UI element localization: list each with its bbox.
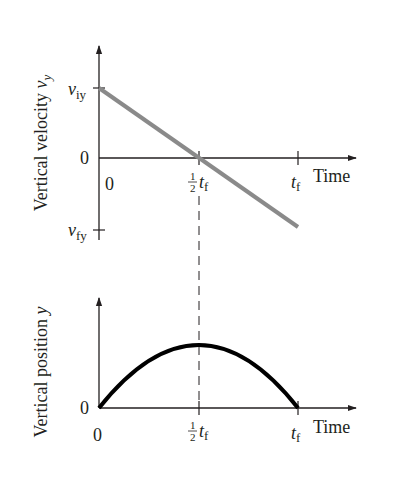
label-tf: tf bbox=[291, 172, 301, 194]
position-plot: Vertical position y 0 0 1 2 tf tf Time bbox=[31, 298, 356, 445]
position-x-axis-title: Time bbox=[313, 417, 350, 437]
velocity-plot: Vertical velocity vy viy 0 vfy 0 1 2 tf … bbox=[31, 46, 356, 243]
kinematics-diagram: Vertical velocity vy viy 0 vfy 0 1 2 tf … bbox=[0, 0, 414, 484]
half-num-bottom: 1 bbox=[190, 419, 196, 431]
label-vfy: vfy bbox=[68, 220, 87, 243]
label-y-zero: 0 bbox=[80, 148, 89, 168]
label-viy: viy bbox=[68, 79, 87, 102]
half-num: 1 bbox=[190, 170, 196, 182]
label-half-tf-bottom: tf bbox=[199, 421, 209, 443]
label-half-tf: tf bbox=[199, 172, 209, 194]
position-y-axis-title: Vertical position y bbox=[31, 307, 51, 438]
label-tf-bottom: tf bbox=[291, 423, 301, 445]
label-x-zero: 0 bbox=[105, 174, 114, 194]
half-den: 2 bbox=[190, 182, 196, 194]
half-den-bottom: 2 bbox=[190, 431, 196, 443]
velocity-x-axis-title: Time bbox=[313, 166, 350, 186]
velocity-y-axis-title: Vertical velocity vy bbox=[31, 74, 54, 211]
label-x-zero-bottom: 0 bbox=[93, 425, 102, 445]
label-y-zero-bottom: 0 bbox=[80, 398, 89, 418]
